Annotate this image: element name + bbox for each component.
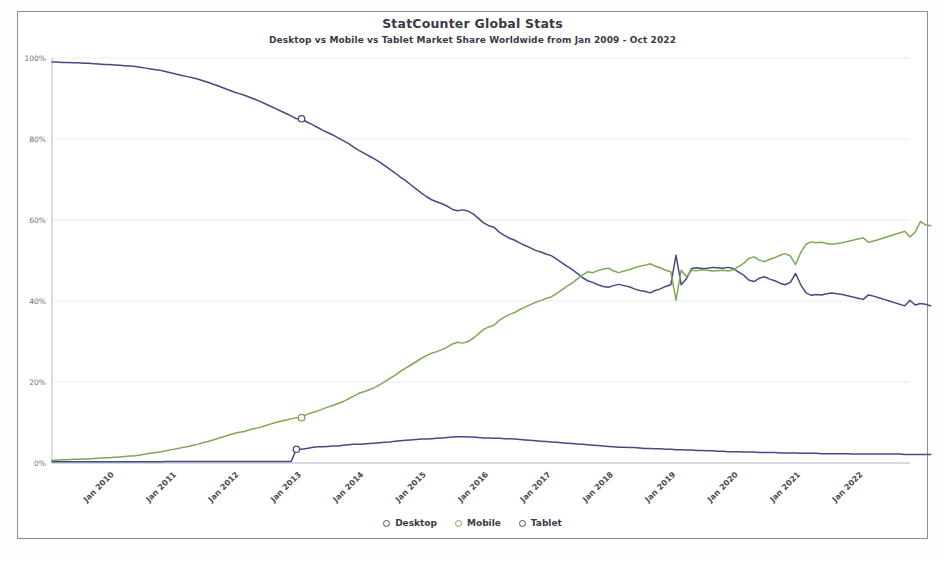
line-chart-plot: 0%20%40%60%80%100%Jan 2010Jan 2011Jan 20… — [0, 0, 945, 562]
x-axis-tick-label: Jan 2012 — [206, 470, 241, 505]
legend-label-mobile: Mobile — [467, 518, 501, 528]
data-point-marker-tablet[interactable] — [293, 446, 299, 452]
x-axis-tick-label: Jan 2018 — [580, 470, 615, 505]
y-axis-tick-label: 100% — [25, 54, 46, 63]
y-axis-tick-label: 40% — [29, 297, 46, 306]
legend-marker-mobile — [455, 520, 462, 527]
x-axis-tick-label: Jan 2011 — [143, 470, 178, 505]
chart-screenshot: StatCounter Global Stats Desktop vs Mobi… — [0, 0, 945, 562]
x-axis-tick-label: Jan 2021 — [767, 470, 802, 505]
legend-item-tablet[interactable]: Tablet — [519, 518, 562, 528]
x-axis-tick-label: Jan 2022 — [830, 470, 865, 505]
y-axis-tick-label: 0% — [34, 459, 46, 468]
y-axis-tick-label: 60% — [29, 216, 46, 225]
x-axis-tick-label: Jan 2017 — [518, 470, 553, 505]
x-axis-tick-label: Jan 2015 — [393, 470, 428, 505]
series-line-tablet — [52, 437, 931, 462]
series-line-desktop — [52, 62, 931, 306]
y-axis-tick-label: 80% — [29, 135, 46, 144]
legend-marker-desktop — [383, 520, 390, 527]
legend-item-mobile[interactable]: Mobile — [455, 518, 501, 528]
x-axis-tick-label: Jan 2013 — [268, 470, 303, 505]
y-axis-tick-label: 20% — [29, 378, 46, 387]
data-point-marker-mobile[interactable] — [298, 414, 304, 420]
series-line-mobile — [52, 222, 931, 461]
data-point-marker-desktop[interactable] — [298, 116, 304, 122]
legend-item-desktop[interactable]: Desktop — [383, 518, 437, 528]
x-axis-tick-label: Jan 2016 — [455, 470, 490, 505]
chart-legend: Desktop Mobile Tablet — [17, 518, 928, 528]
x-axis-tick-label: Jan 2020 — [705, 470, 740, 505]
x-axis-tick-label: Jan 2019 — [643, 470, 678, 505]
legend-label-desktop: Desktop — [395, 518, 437, 528]
legend-marker-tablet — [519, 520, 526, 527]
x-axis-tick-label: Jan 2010 — [81, 470, 116, 505]
x-axis-tick-label: Jan 2014 — [331, 470, 366, 505]
legend-label-tablet: Tablet — [531, 518, 562, 528]
